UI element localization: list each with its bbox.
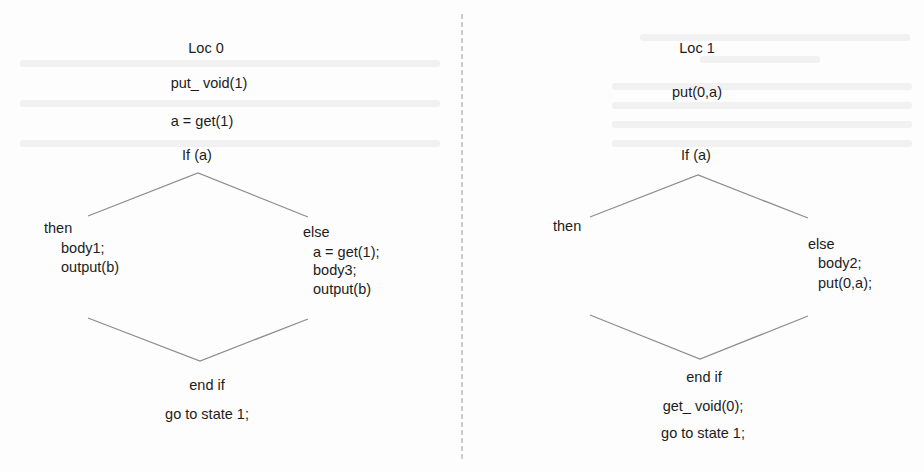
- left-then-body-line: body1;: [61, 240, 105, 257]
- left-branch-bottom: [88, 318, 308, 361]
- diagram-lines: [0, 0, 924, 472]
- right-condition: If (a): [681, 147, 711, 164]
- right-post-statement: get_ void(0);: [663, 398, 744, 415]
- right-branch-bottom: [590, 315, 808, 359]
- left-then-body-line: output(b): [61, 259, 119, 276]
- left-end-if: end if: [189, 377, 224, 394]
- left-pre-statement: a = get(1): [171, 113, 233, 130]
- diagram-canvas: Loc 0 put_ void(1) a = get(1) If (a) the…: [0, 0, 924, 472]
- left-then-label: then: [44, 220, 72, 237]
- left-else-body-line: a = get(1);: [313, 244, 380, 261]
- right-else-label: else: [808, 236, 835, 253]
- left-condition: If (a): [182, 147, 212, 164]
- left-pre-statement: put_ void(1): [171, 75, 248, 92]
- right-else-body-line: put(0,a);: [818, 275, 872, 292]
- right-post-statement: go to state 1;: [661, 425, 745, 442]
- right-pre-statement: put(0,a): [672, 84, 722, 101]
- right-end-if: end if: [686, 369, 721, 386]
- left-else-label: else: [303, 224, 330, 241]
- right-branch-top: [590, 175, 808, 218]
- left-else-body-line: body3;: [313, 262, 357, 279]
- left-branch-top: [88, 173, 308, 217]
- right-then-label: then: [553, 218, 581, 235]
- right-else-body-line: body2;: [818, 255, 862, 272]
- left-else-body-line: output(b): [313, 281, 371, 298]
- left-post-statement: go to state 1;: [165, 406, 249, 423]
- right-state-title: Loc 1: [679, 40, 714, 57]
- left-state-title: Loc 0: [188, 40, 223, 57]
